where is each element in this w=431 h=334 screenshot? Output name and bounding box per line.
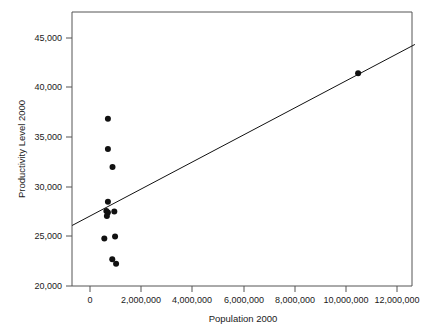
data-point (105, 116, 111, 122)
x-tick-label-0: 0 (87, 295, 92, 305)
x-axis-ticks (90, 286, 397, 292)
regression-fit-line (72, 44, 415, 225)
x-axis-tick-labels: 0 2,000,000 4,000,000 6,000,000 8,000,00… (87, 295, 419, 305)
y-axis-title: Productivity Level 2000 (16, 100, 27, 198)
y-tick-label-45000: 45,000 (34, 33, 62, 43)
data-point (101, 235, 107, 241)
plot-frame (72, 12, 412, 286)
x-tick-label-8000000: 8,000,000 (275, 295, 315, 305)
y-tick-label-40000: 40,000 (34, 82, 62, 92)
data-point (110, 164, 116, 170)
data-point (111, 209, 117, 215)
x-tick-label-6000000: 6,000,000 (224, 295, 264, 305)
x-tick-label-4000000: 4,000,000 (172, 295, 212, 305)
y-tick-label-25000: 25,000 (34, 231, 62, 241)
y-axis-tick-labels: 45,000 40,000 35,000 30,000 25,000 20,00… (34, 33, 62, 291)
x-axis-title: Population 2000 (209, 313, 278, 324)
plot-area: 45,000 40,000 35,000 30,000 25,000 20,00… (0, 0, 431, 334)
data-point (112, 233, 118, 239)
y-tick-label-35000: 35,000 (34, 132, 62, 142)
x-tick-label-10000000: 10,000,000 (323, 295, 368, 305)
scatter-chart: 45,000 40,000 35,000 30,000 25,000 20,00… (0, 0, 431, 334)
data-point (104, 213, 110, 219)
y-axis-ticks (66, 38, 72, 286)
data-point (105, 146, 111, 152)
data-point (105, 199, 111, 205)
y-tick-label-30000: 30,000 (34, 182, 62, 192)
data-points-group (101, 70, 361, 266)
data-point (355, 70, 361, 76)
x-tick-label-12000000: 12,000,000 (374, 295, 419, 305)
x-tick-label-2000000: 2,000,000 (121, 295, 161, 305)
y-tick-label-20000: 20,000 (34, 281, 62, 291)
data-point (113, 261, 119, 267)
